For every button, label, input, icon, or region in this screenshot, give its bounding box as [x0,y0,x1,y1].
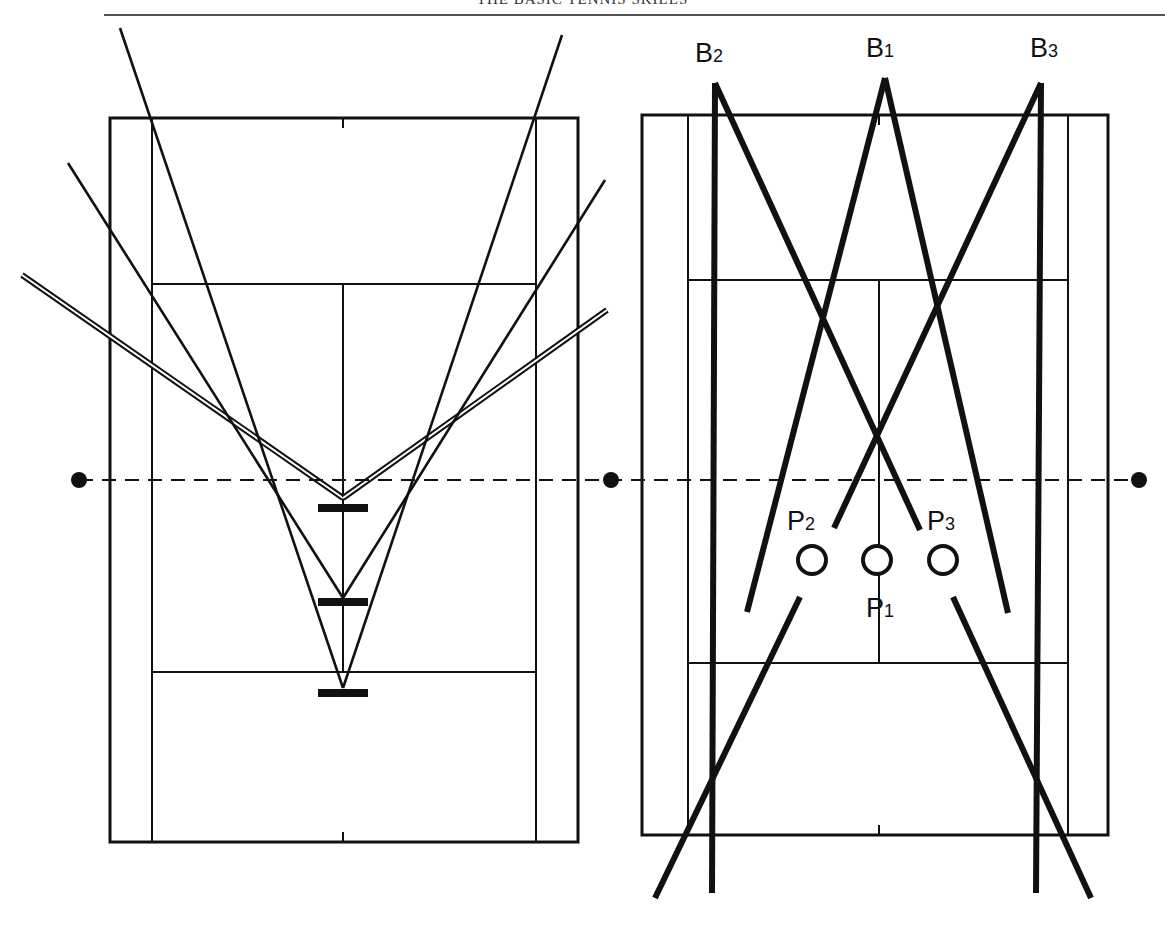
wide-angle-double-right-gap [343,310,607,498]
B2-cross-continued [655,597,800,898]
player-label-P1: P1 [866,593,894,623]
player-circle-P3 [929,546,957,574]
ball-label-B1: B1 [866,33,894,63]
ball-label-subscript: 3 [1048,41,1058,61]
net-post-dot [603,472,619,488]
player-position-marker [318,598,368,606]
net-post-dot [71,472,87,488]
player-label-P2: P2 [787,506,815,536]
net-post-dot [1131,472,1147,488]
ball-label-subscript: 1 [884,41,894,61]
right-court: B2B1B3P2P3P1 [642,33,1108,898]
B1-left [747,78,885,612]
player-label-subscript: 3 [945,514,955,534]
player-circle-P1 [863,546,891,574]
ball-label-subscript: 2 [713,46,723,66]
mid-angle-right [343,180,605,598]
B3-straight [1036,83,1041,893]
player-label-subscript: 2 [805,514,815,534]
left-court [22,28,607,842]
player-label-subscript: 1 [884,601,894,621]
narrow-angle-left [120,28,343,688]
player-label-P3: P3 [927,506,955,536]
player-position-marker [318,504,368,512]
B3-cross-continued [953,597,1091,898]
net-line [71,472,1147,488]
player-circle-P2 [798,546,826,574]
ball-label-B2: B2 [695,38,723,68]
tennis-angles-diagram: B2B1B3P2P3P1 [0,0,1165,930]
ball-label-B3: B3 [1030,33,1058,63]
wide-angle-double-left-gap [22,275,343,498]
player-position-marker [318,689,368,697]
narrow-angle-right [343,35,562,688]
B2-cross [715,83,920,530]
